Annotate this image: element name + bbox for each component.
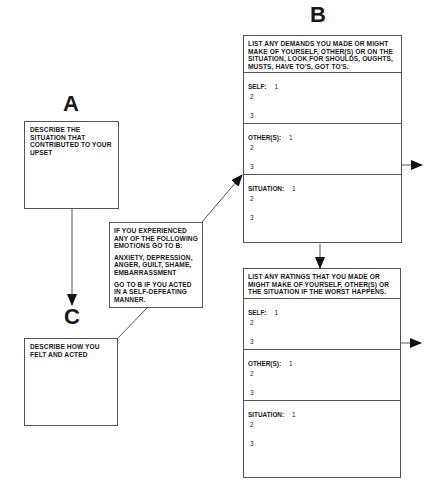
line-number: 2 [250, 144, 254, 151]
line-number: 2 [250, 319, 254, 326]
line-number: 1 [292, 185, 296, 192]
line-number: 2 [250, 195, 254, 202]
self-defeating-note: GO TO B IF YOU ACTED IN A SELF-DEFEATING… [110, 277, 202, 304]
emotions-intro: IF YOU EXPERIENCED ANY OF THE FOLLOWING … [110, 223, 202, 250]
line-number: 3 [250, 214, 254, 221]
line-number: 1 [274, 309, 278, 316]
situation-prompt: DESCRIBE THE SITUATION THAT CONTRIBUTED … [25, 122, 118, 160]
ratings-self-section[interactable]: SELF:1 2 3 [244, 298, 400, 349]
line-number: 2 [250, 93, 254, 100]
line-number: 3 [250, 163, 254, 170]
line-number: 1 [289, 134, 293, 141]
line-c-to-emotions [118, 307, 148, 338]
section-label: SELF: [248, 309, 266, 316]
line-number: 2 [250, 421, 254, 428]
label-b: B [310, 4, 326, 26]
demands-self-section[interactable]: SELF:1 2 3 [244, 72, 401, 123]
ratings-header: LIST ANY RATINGS THAT YOU MADE OR MIGHT … [248, 273, 397, 296]
section-label: OTHER(S): [248, 134, 281, 141]
situation-box[interactable]: DESCRIBE THE SITUATION THAT CONTRIBUTED … [24, 121, 119, 209]
line-number: 1 [274, 83, 278, 90]
ratings-situation-section[interactable]: SITUATION:1 2 3 [244, 400, 400, 478]
felt-acted-prompt: DESCRIBE HOW YOU FELT AND ACTED [25, 339, 117, 362]
label-a: A [63, 93, 79, 115]
demands-header: LIST ANY DEMANDS YOU MADE OR MIGHT MAKE … [248, 40, 398, 70]
felt-acted-box[interactable]: DESCRIBE HOW YOU FELT AND ACTED [24, 338, 118, 426]
arrow-emotions-to-b [202, 175, 242, 222]
section-label: SELF: [248, 83, 266, 90]
demands-situation-section[interactable]: SITUATION:1 2 3 [244, 174, 401, 243]
line-number: 1 [289, 360, 293, 367]
ratings-box: LIST ANY RATINGS THAT YOU MADE OR MIGHT … [243, 268, 401, 478]
line-number: 3 [250, 112, 254, 119]
demands-box: LIST ANY DEMANDS YOU MADE OR MIGHT MAKE … [243, 35, 402, 243]
line-number: 3 [250, 440, 254, 447]
emotions-list: ANXIETY, DEPRESSION, ANGER, GUILT, SHAME… [110, 250, 202, 277]
line-number: 3 [250, 338, 254, 345]
line-number: 1 [292, 411, 296, 418]
line-number: 2 [250, 370, 254, 377]
section-label: OTHER(S): [248, 360, 281, 367]
line-number: 3 [250, 389, 254, 396]
ratings-others-section[interactable]: OTHER(S):1 2 3 [244, 349, 400, 400]
section-label: SITUATION: [248, 185, 284, 192]
demands-others-section[interactable]: OTHER(S):1 2 3 [244, 123, 401, 174]
emotions-box: IF YOU EXPERIENCED ANY OF THE FOLLOWING … [109, 222, 203, 308]
label-c: C [64, 306, 80, 328]
section-label: SITUATION: [248, 411, 284, 418]
